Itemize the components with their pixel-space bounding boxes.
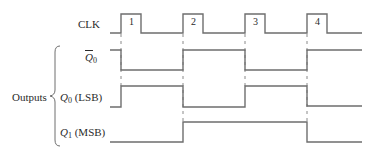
- pulse-number-3: 3: [253, 17, 258, 27]
- q0-bar-subscript: 0: [93, 56, 97, 65]
- outputs-brace: [50, 46, 60, 146]
- q1-waveform: [110, 122, 362, 142]
- q1-symbol: Q: [60, 126, 68, 138]
- q1-msb-label: Q1 (MSB): [60, 127, 105, 140]
- q0-symbol: Q: [60, 91, 68, 103]
- q1-suffix: (MSB): [72, 126, 105, 138]
- q0-bar-symbol: Q: [85, 51, 93, 63]
- clk-label: CLK: [78, 19, 100, 30]
- q0-bar-waveform: [110, 50, 362, 70]
- q0-bar-label: Q0: [85, 52, 97, 65]
- q0-lsb-label: Q0 (LSB): [60, 92, 102, 105]
- clock-edge-guides: [121, 34, 307, 124]
- outputs-group-label: Outputs: [12, 92, 47, 103]
- q0-waveform: [110, 86, 362, 107]
- pulse-number-1: 1: [129, 17, 134, 27]
- q0-suffix: (LSB): [72, 91, 102, 103]
- pulse-number-2: 2: [191, 17, 196, 27]
- clk-waveform: [110, 14, 362, 33]
- pulse-number-4: 4: [315, 17, 320, 27]
- timing-diagram: [0, 0, 379, 150]
